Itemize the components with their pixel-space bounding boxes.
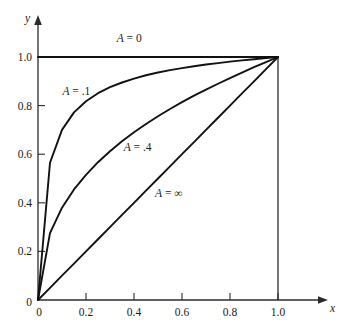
x-tick-label: 0 [36, 306, 42, 318]
x-tick-label: 1.0 [271, 306, 286, 318]
curve-label-0: A = 0 [116, 32, 142, 44]
y-tick-label: 0.2 [18, 245, 33, 257]
y-tick-label: 0 [26, 296, 32, 308]
x-axis-label: x [329, 302, 336, 314]
curve-label-1: A = .1 [61, 85, 90, 97]
x-tick-label: 0.8 [223, 306, 238, 318]
y-tick-label: 0.8 [18, 100, 33, 112]
x-tick-label: 0.6 [175, 306, 190, 318]
chart-background [0, 0, 346, 332]
x-tick-label: 0.4 [127, 306, 142, 318]
y-tick-label: 1.0 [18, 51, 33, 63]
y-tick-label: 0.6 [18, 148, 33, 160]
curve-label-3: A = ∞ [154, 187, 182, 199]
y-tick-label: 0.4 [18, 197, 33, 209]
isoquant-family-chart: y x 00.20.40.60.81.0 00.20.40.60.81.0 A … [0, 0, 346, 332]
y-axis-label: y [24, 12, 31, 25]
figure-root: y x 00.20.40.60.81.0 00.20.40.60.81.0 A … [0, 0, 346, 332]
x-tick-label: 0.2 [79, 306, 94, 318]
curve-label-2: A = .4 [123, 141, 152, 153]
